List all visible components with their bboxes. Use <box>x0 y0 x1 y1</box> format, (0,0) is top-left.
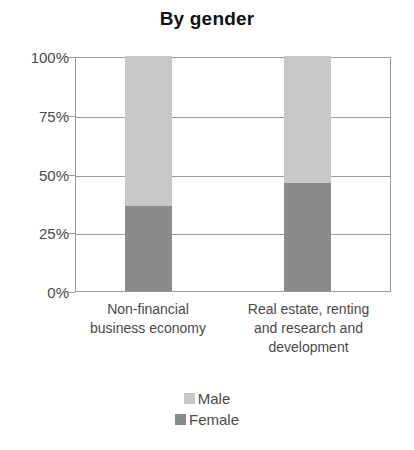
plot-area <box>75 57 391 292</box>
y-axis-tick-mark <box>68 57 75 58</box>
bar-segment-female[interactable] <box>284 183 331 291</box>
gridline <box>76 176 390 177</box>
category-label-0: Non-financialbusiness economy <box>78 300 218 338</box>
gridline <box>76 117 390 118</box>
y-axis-tick-label: 75% <box>9 107 69 124</box>
chart-title: By gender <box>0 8 414 30</box>
y-axis-tick-label: 50% <box>9 166 69 183</box>
gridline <box>76 234 390 235</box>
bar-segment-female[interactable] <box>125 206 172 291</box>
y-axis-tick-mark <box>68 175 75 176</box>
legend-swatch-icon <box>175 414 186 425</box>
legend-swatch-icon <box>184 393 195 404</box>
legend-label: Male <box>198 388 231 409</box>
legend-item[interactable]: Female <box>175 409 239 430</box>
y-axis-tick-mark <box>68 116 75 117</box>
y-axis-tick-label: 0% <box>9 284 69 301</box>
bar-segment-male[interactable] <box>125 56 172 206</box>
bar-column[interactable] <box>125 56 172 291</box>
category-label-line: business economy <box>78 319 218 338</box>
category-label-line: Non-financial <box>78 300 218 319</box>
y-axis-tick-label: 25% <box>9 225 69 242</box>
bar-segment-male[interactable] <box>284 56 331 183</box>
bar-column[interactable] <box>284 56 331 291</box>
chart-legend: MaleFemale <box>0 388 414 430</box>
category-label-1: Real estate, rentingand research anddeve… <box>236 300 381 357</box>
legend-item[interactable]: Male <box>184 388 231 409</box>
legend-label: Female <box>189 409 239 430</box>
y-axis-tick-label: 100% <box>9 49 69 66</box>
category-label-line: development <box>236 338 381 357</box>
y-axis-tick-mark <box>68 233 75 234</box>
category-label-line: Real estate, renting <box>236 300 381 319</box>
category-label-line: and research and <box>236 319 381 338</box>
y-axis-tick-mark <box>68 292 75 293</box>
